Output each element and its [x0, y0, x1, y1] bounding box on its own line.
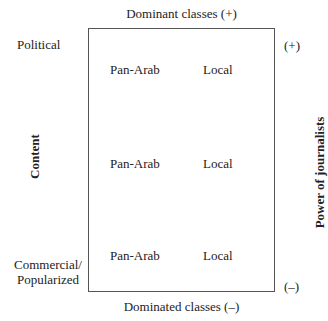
cell-local-middle: Local: [203, 157, 233, 170]
left-axis-label-content: Content: [28, 132, 41, 182]
cell-pan-arab-top: Pan-Arab: [110, 63, 160, 76]
right-minus-marker: (–): [284, 280, 299, 293]
right-plus-marker: (+): [284, 39, 300, 52]
cell-local-bottom: Local: [203, 249, 233, 262]
row-label-popularized: Popularized: [17, 273, 79, 286]
row-label-commercial: Commercial/: [14, 258, 82, 271]
top-label-dominant-classes: Dominant classes (+): [88, 7, 275, 20]
cell-local-top: Local: [203, 63, 233, 76]
cell-pan-arab-middle: Pan-Arab: [110, 157, 160, 170]
right-axis-label-power-of-journalists: Power of journalists: [313, 103, 326, 243]
cell-pan-arab-bottom: Pan-Arab: [110, 249, 160, 262]
bottom-label-dominated-classes: Dominated classes (–): [88, 300, 275, 313]
row-label-political: Political: [17, 38, 60, 51]
